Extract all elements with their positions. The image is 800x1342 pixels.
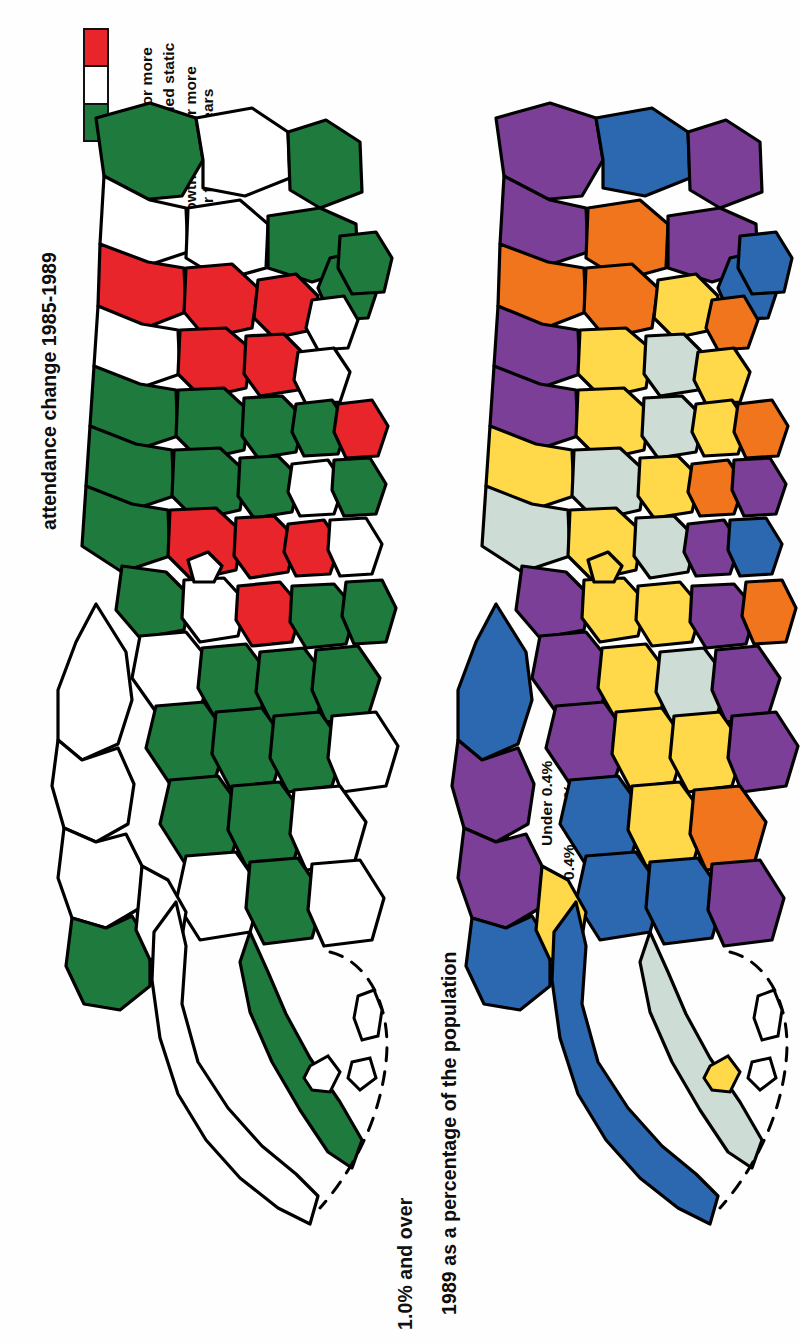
attendance-map — [0, 0, 400, 1342]
percentage-map — [400, 0, 800, 1342]
panel-attendance-change: attendance change 1985-1989 Decline of 5… — [0, 0, 400, 1342]
map-regions — [52, 103, 398, 1224]
figure-page: attendance change 1985-1989 Decline of 5… — [0, 0, 800, 1342]
panel-percentage-population: 1.0% and over 1989 as a percentage of th… — [400, 0, 800, 1342]
map-regions — [452, 103, 798, 1224]
